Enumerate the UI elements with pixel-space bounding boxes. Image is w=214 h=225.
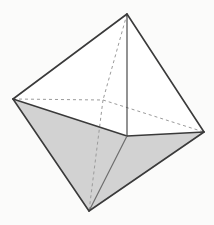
octahedron-figure — [0, 0, 214, 225]
octahedron-svg — [0, 0, 214, 225]
caption-strip — [0, 217, 214, 225]
